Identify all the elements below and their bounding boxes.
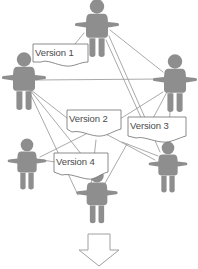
- person-left-lower[interactable]: [8, 139, 47, 190]
- callout-label-version-1: Version 1: [35, 48, 74, 58]
- person-right-upper[interactable]: [153, 54, 197, 112]
- down-arrow: [79, 234, 119, 266]
- callout-label-version-4: Version 4: [56, 157, 95, 167]
- callout-label-version-2: Version 2: [69, 114, 108, 124]
- diagram-canvas: Version 1 Version 2 Version 3 Version 4: [0, 0, 198, 269]
- down-arrow-shape: [79, 234, 119, 266]
- line-left-upper-to-right-upper: [36, 79, 163, 80]
- line-left-upper-to-bottom: [29, 91, 78, 195]
- diagram-svg: [0, 0, 198, 269]
- person-right-lower[interactable]: [149, 142, 188, 193]
- line-top-to-v1: [75, 33, 84, 44]
- callout-label-version-3: Version 3: [130, 121, 169, 131]
